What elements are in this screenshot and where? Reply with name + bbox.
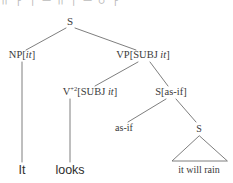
edge-root-to-vp xyxy=(75,28,136,50)
node-v-feature-head: SUBJ xyxy=(81,86,108,97)
terminal-it: It xyxy=(19,164,26,177)
node-vp-bracket-close: ] xyxy=(166,49,170,60)
node-v-superscript: +2 xyxy=(70,85,77,92)
terminal-it-will-rain-label: it will rain xyxy=(178,164,220,175)
edge-vp-to-sasif xyxy=(150,62,168,86)
embedded-clause-triangle xyxy=(172,136,227,161)
edge-sasif-to-asif xyxy=(128,99,166,122)
node-s-root-label: S xyxy=(67,15,73,27)
edge-root-to-np xyxy=(26,28,66,50)
terminal-looks-label: looks xyxy=(55,163,84,177)
tree-diagram-figure: ㅠ ㅏ ㅣ ㅡ ㅠ ㅣ ㅡ ㅇ ㅏ S NP[it] VP[SUBJ it] V… xyxy=(0,0,233,183)
edge-vp-to-v xyxy=(95,62,138,86)
node-s-asif-label: S[as-if] xyxy=(155,86,187,97)
node-s-embedded-label: S xyxy=(196,123,202,134)
node-np: NP[it] xyxy=(9,50,35,61)
node-np-category: NP xyxy=(9,49,22,60)
terminal-as-if-label: as-if xyxy=(115,122,133,133)
node-vp-feature-head: SUBJ xyxy=(133,49,160,60)
node-v-bracket-close: ] xyxy=(114,86,118,97)
terminal-looks: looks xyxy=(55,164,84,177)
node-vp: VP[SUBJ it] xyxy=(116,50,169,61)
edge-sasif-to-s xyxy=(176,99,196,122)
node-v-category: V xyxy=(63,86,71,97)
node-s-embedded: S xyxy=(196,124,202,134)
terminal-as-if: as-if xyxy=(115,123,133,133)
node-np-bracket-close: ] xyxy=(32,49,36,60)
terminal-it-will-rain: it will rain xyxy=(178,165,220,175)
terminal-it-label: It xyxy=(19,163,26,177)
node-s-root: S xyxy=(67,16,73,27)
node-vp-category: VP xyxy=(116,49,129,60)
node-v: V+2[SUBJ it] xyxy=(63,87,118,98)
node-s-asif: S[as-if] xyxy=(155,87,187,98)
